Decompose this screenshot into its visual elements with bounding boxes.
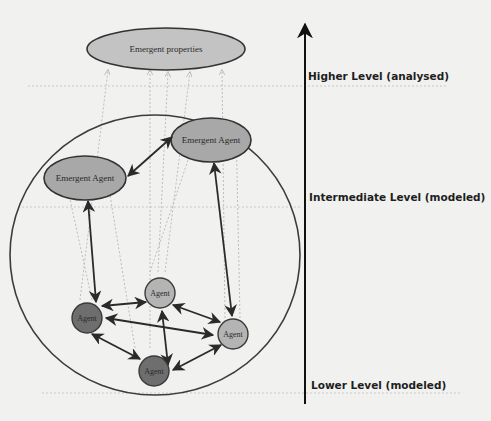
emergent-agent-node-1: Emergent Agent [44, 156, 126, 200]
agent-node-2: Agent [145, 278, 175, 308]
agent-node-1: Agent [72, 303, 102, 333]
emergent-agent-node-2: Emergent Agent [171, 118, 251, 162]
arrow-a2-a4 [162, 311, 168, 365]
agent-1-label: Agent [77, 314, 97, 323]
arrow-a1-a3 [106, 318, 213, 335]
agent-node-4: Agent [139, 356, 169, 386]
arrow-a1-a2 [102, 302, 146, 306]
emergence-diagram: Emergent properties Emergent Agent Emerg… [0, 0, 491, 421]
emergent-properties-node: Emergent properties [87, 28, 245, 70]
intermediate-level-label: Intermediate Level (modeled) [309, 191, 485, 203]
emergent-agent-1-label: Emergent Agent [56, 173, 115, 183]
lower-level-label: Lower Level (modeled) [311, 379, 446, 391]
emergent-agent-2-label: Emergent Agent [182, 135, 241, 145]
agent-2-label: Agent [150, 289, 170, 298]
higher-level-label: Higher Level (analysed) [308, 70, 449, 82]
emergent-properties-label: Emergent properties [129, 44, 203, 54]
agent-3-label: Agent [223, 330, 243, 339]
agent-system-boundary [10, 115, 300, 395]
arrow-a3-a4 [173, 345, 221, 370]
agent-node-3: Agent [218, 319, 248, 349]
arrow-a1-a4 [92, 334, 140, 359]
agent-4-label: Agent [144, 367, 164, 376]
arrow-a2-a3 [173, 305, 220, 322]
